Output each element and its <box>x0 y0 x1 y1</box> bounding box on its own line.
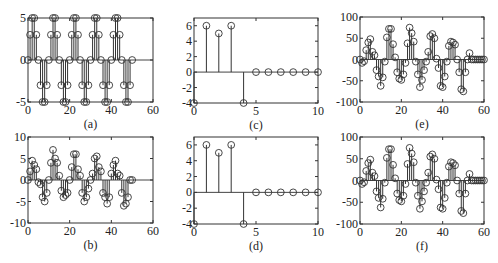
x-tick-label: 0 <box>25 224 31 238</box>
x-tick-label: 40 <box>105 224 117 238</box>
panel-a: -5050204060(a) <box>16 11 159 131</box>
y-tick-label: 4 <box>186 34 192 48</box>
y-tick-label: 5 <box>20 11 26 25</box>
y-tick-label: 6 <box>186 138 192 152</box>
x-tick-label: 60 <box>147 224 159 238</box>
y-tick-label: 2 <box>186 50 192 64</box>
panel-b: -10-505100204060(b) <box>10 130 159 252</box>
y-tick-label: 6 <box>186 19 192 33</box>
y-tick-label: 50 <box>346 31 358 45</box>
panel-e: -100-500501000204060(e) <box>336 10 490 131</box>
y-tick-label: 100 <box>340 130 358 144</box>
panel-caption: (f) <box>416 239 428 253</box>
panel-d: -4-202460510(d) <box>182 137 324 253</box>
y-tick-label: 5 <box>20 152 26 166</box>
y-tick-label: -10 <box>10 216 26 230</box>
x-tick-label: 10 <box>312 104 324 118</box>
x-tick-label: 60 <box>147 103 159 117</box>
x-tick-label: 5 <box>253 225 259 239</box>
panel-caption: (b) <box>84 238 98 252</box>
y-tick-label: 0 <box>186 185 192 199</box>
y-tick-label: 10 <box>14 130 26 144</box>
plot-frame <box>194 137 318 224</box>
y-tick-label: 0 <box>20 53 26 67</box>
y-tick-label: -2 <box>182 81 192 95</box>
y-tick-label: 0 <box>20 173 26 187</box>
panel-c: -4-202460510(c) <box>182 18 324 132</box>
x-tick-label: 0 <box>357 103 363 117</box>
x-tick-label: 60 <box>478 103 490 117</box>
x-tick-label: 20 <box>395 225 407 239</box>
x-tick-label: 5 <box>253 104 259 118</box>
y-tick-label: 100 <box>340 10 358 24</box>
x-tick-label: 20 <box>395 103 407 117</box>
y-tick-label: -5 <box>16 195 26 209</box>
x-tick-label: 40 <box>437 225 449 239</box>
y-tick-label: -100 <box>336 217 358 231</box>
figure: -5050204060(a) -4-202460510(c) -100-5005… <box>0 0 498 263</box>
x-tick-label: 60 <box>478 225 490 239</box>
panel-f: -100-500501000204060(f) <box>336 130 490 253</box>
x-tick-label: 0 <box>357 225 363 239</box>
y-tick-label: 2 <box>186 170 192 184</box>
x-tick-label: 40 <box>437 103 449 117</box>
y-tick-label: 0 <box>186 65 192 79</box>
y-tick-label: -50 <box>342 74 358 88</box>
y-tick-label: -100 <box>336 95 358 109</box>
y-tick-label: 50 <box>346 152 358 166</box>
panel-caption: (a) <box>84 117 97 131</box>
y-tick-label: 0 <box>352 53 358 67</box>
y-tick-label: -2 <box>182 201 192 215</box>
x-tick-label: 10 <box>312 225 324 239</box>
y-tick-label: 0 <box>352 174 358 188</box>
x-tick-label: 0 <box>25 103 31 117</box>
x-tick-label: 20 <box>64 224 76 238</box>
panel-caption: (e) <box>415 117 428 131</box>
y-tick-label: 4 <box>186 154 192 168</box>
plot-frame <box>194 18 318 103</box>
panel-caption: (d) <box>249 239 263 253</box>
y-tick-label: -50 <box>342 195 358 209</box>
panel-caption: (c) <box>249 118 262 132</box>
